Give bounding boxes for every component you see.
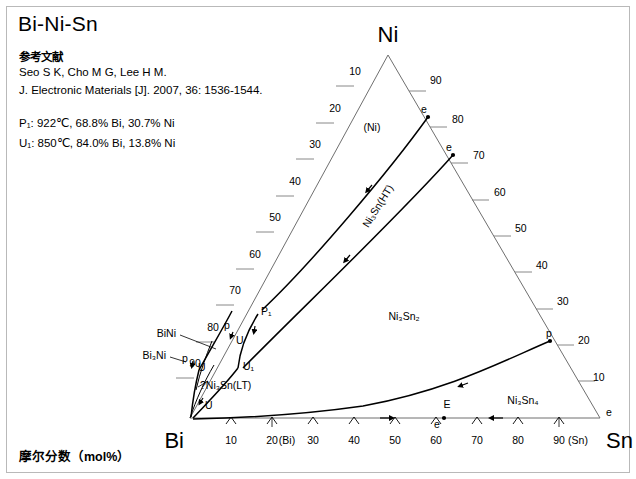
- right-tick-70: 70: [473, 149, 485, 161]
- right-tick-40: 40: [536, 259, 548, 271]
- axis-left-tick-labels: 10 20 30 40 50 60 70 80 90: [189, 65, 361, 369]
- left-tick-10: 10: [349, 65, 361, 77]
- vertex-label-ni: Ni: [378, 22, 399, 47]
- phase-label-ni3sn2: Ni₃Sn₂: [388, 310, 419, 322]
- right-tick-10: 10: [593, 371, 605, 383]
- p-label-b: p: [182, 352, 188, 364]
- boundary-ni3sn2-ni3sn4-arrow: [460, 383, 468, 386]
- left-tick-50: 50: [269, 211, 281, 223]
- right-tick-90: 90: [430, 74, 442, 86]
- phase-label-sn: (Sn): [568, 434, 588, 446]
- p-label-a: p: [224, 319, 230, 331]
- phase-label-ni3sn4: Ni₃Sn₄: [507, 394, 538, 406]
- bottom-tick-10: 10: [225, 434, 237, 446]
- phase-diagram-page: Bi-Ni-Sn 参考文献 Seo S K, Cho M G, Lee H M.…: [0, 0, 636, 479]
- bottom-tick-70: 70: [471, 434, 483, 446]
- left-tick-40: 40: [289, 175, 301, 187]
- right-tick-20: 20: [578, 334, 590, 346]
- u-label-b: U: [198, 361, 206, 373]
- bottom-tick-80: 80: [512, 434, 524, 446]
- left-tick-30: 30: [309, 138, 321, 150]
- left-tick-80: 80: [207, 321, 219, 333]
- left-tick-70: 70: [229, 284, 241, 296]
- right-tick-80: 80: [452, 113, 464, 125]
- bottom-tick-50: 50: [389, 434, 401, 446]
- phase-label-ni: (Ni): [364, 121, 381, 133]
- ternary-phase-diagram: 10 20 30 40 50 60 70 80 90 10 20 30 40: [0, 0, 636, 479]
- vertex-label-bi: Bi: [164, 428, 184, 453]
- bottom-tick-30: 30: [307, 434, 319, 446]
- eutectic-e-label: e: [434, 418, 440, 430]
- boundary-ni3sn-ni3sn2-arrow: [345, 255, 350, 261]
- p-marker-right: [548, 339, 552, 343]
- boundary-ni-ni3sn: [262, 117, 428, 310]
- phase-label-bi: (Bi): [279, 434, 295, 446]
- vertex-label-sn: Sn: [606, 428, 633, 453]
- bottom-tick-20: 20: [266, 434, 278, 446]
- p-label-right: p: [546, 327, 552, 339]
- right-tick-50: 50: [515, 222, 527, 234]
- right-tick-60: 60: [494, 186, 506, 198]
- phase-label-ni3sn-ht: Ni₃Sn(HT): [360, 182, 396, 229]
- axis-right-ticks: [409, 91, 595, 381]
- u-label-a: U: [236, 334, 244, 346]
- bottom-tick-40: 40: [348, 434, 360, 446]
- boundary-ni3sn-ni3sn2: [243, 155, 453, 368]
- u1-label: U₁: [243, 360, 255, 372]
- phase-label-bini: BiNi: [157, 327, 176, 339]
- axis-bottom-tick-labels: 10 20 30 40 50 60 70 80 90: [225, 434, 565, 446]
- bottom-tick-90: 90: [553, 434, 565, 446]
- e-label-80: e: [421, 103, 427, 115]
- eutectic-E-dot: [442, 416, 446, 420]
- phase-label-bi3ni: Bi₃Ni: [142, 349, 166, 361]
- u-label-c: U: [205, 399, 213, 411]
- left-tick-60: 60: [249, 248, 261, 260]
- right-tick-30: 30: [557, 295, 569, 307]
- p1-label: P₁: [261, 305, 272, 317]
- bottom-tick-60: 60: [430, 434, 442, 446]
- e-marker-80: [426, 115, 430, 119]
- eutectic-E-label: E: [443, 398, 450, 410]
- axis-left-ticks: [176, 86, 354, 378]
- e-marker-70: [451, 153, 455, 157]
- e-label-70: e: [446, 141, 452, 153]
- boundary-bi3ni: [191, 370, 199, 417]
- left-tick-20: 20: [329, 102, 341, 114]
- e-label-sn-corner: e: [606, 406, 612, 418]
- liquidus-boundaries: [191, 117, 550, 419]
- axis-right-tick-labels: 90 80 70 60 50 40 30 20 10: [430, 74, 605, 383]
